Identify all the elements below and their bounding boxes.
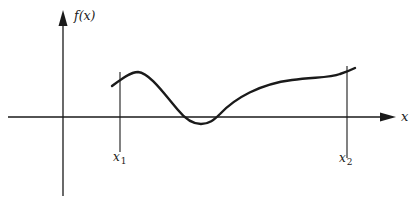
- x2-label-sub: 2: [347, 157, 353, 167]
- x1-marker-label: x1: [113, 150, 127, 166]
- x2-label-base: x: [339, 151, 346, 165]
- function-graph: x f(x) x1 x2: [0, 0, 416, 203]
- y-axis-arrowhead-icon: [59, 10, 68, 26]
- x1-label-sub: 1: [121, 156, 127, 166]
- x2-marker-label: x2: [339, 151, 353, 167]
- y-axis-label: f(x): [73, 8, 96, 23]
- x1-label-base: x: [113, 150, 120, 164]
- x-axis-label: x: [401, 109, 409, 124]
- function-curve: [112, 68, 355, 124]
- x-axis-arrowhead-icon: [380, 113, 396, 122]
